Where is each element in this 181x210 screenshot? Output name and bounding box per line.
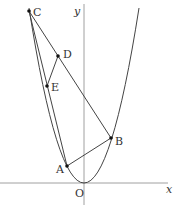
segment-ab [67,138,111,166]
label-c: C [33,6,41,19]
label-a: A [55,163,65,176]
diagram-canvas: C D E A B O y x [0,0,181,210]
point-a [65,164,69,168]
label-b: B [115,135,123,148]
label-x-axis: x [166,183,173,196]
label-y-axis: y [73,5,81,18]
point-d [56,54,60,58]
label-origin: O [75,187,84,200]
point-e [45,84,49,88]
segment-ca [29,11,67,166]
point-c [27,9,31,13]
label-e: E [51,81,59,94]
point-b [109,136,113,140]
label-d: D [63,48,72,61]
segment-bc [29,11,111,138]
